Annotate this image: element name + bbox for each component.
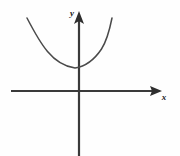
figure-canvas: x y xyxy=(0,0,180,156)
x-axis-label: x xyxy=(161,92,167,102)
parabola-figure: x y xyxy=(0,0,180,156)
figure-background xyxy=(0,0,180,156)
